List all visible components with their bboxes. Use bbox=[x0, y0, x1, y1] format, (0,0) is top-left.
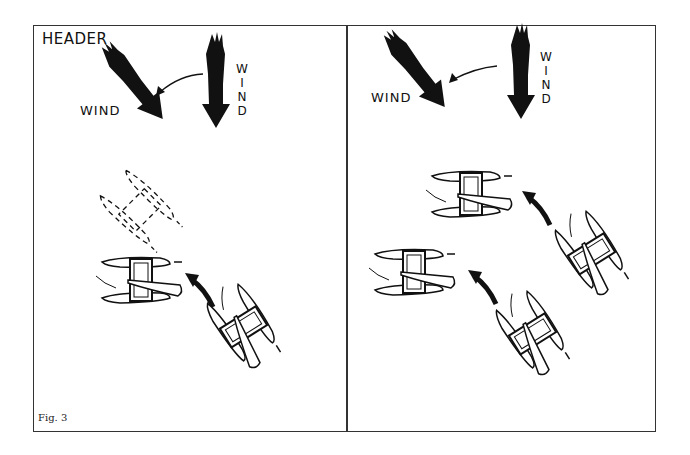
catamaran-new-heading-left bbox=[96, 258, 182, 304]
catamaran-upper-approaching bbox=[548, 204, 632, 301]
tack-arrow-right-upper bbox=[522, 191, 550, 225]
wind-arrow-diagonal-right bbox=[375, 23, 456, 116]
tack-arrow-right-lower bbox=[468, 270, 496, 304]
wind-arrow-diagonal-left bbox=[93, 35, 174, 128]
wind-shift-arrow-left bbox=[160, 74, 203, 92]
catamaran-approaching-left bbox=[200, 277, 284, 374]
tack-arrow-left bbox=[185, 273, 213, 307]
wind-arrow-vertical-left bbox=[202, 32, 230, 128]
catamaran-lower-approaching bbox=[489, 284, 573, 381]
diagram-drawing bbox=[0, 0, 690, 455]
catamaran-lower-new-heading bbox=[369, 250, 455, 296]
catamaran-upper-new-heading bbox=[426, 172, 512, 218]
wind-shift-arrow-right bbox=[452, 66, 497, 80]
catamaran-previous-dashed bbox=[97, 167, 186, 256]
wind-arrow-vertical-right bbox=[507, 23, 535, 119]
